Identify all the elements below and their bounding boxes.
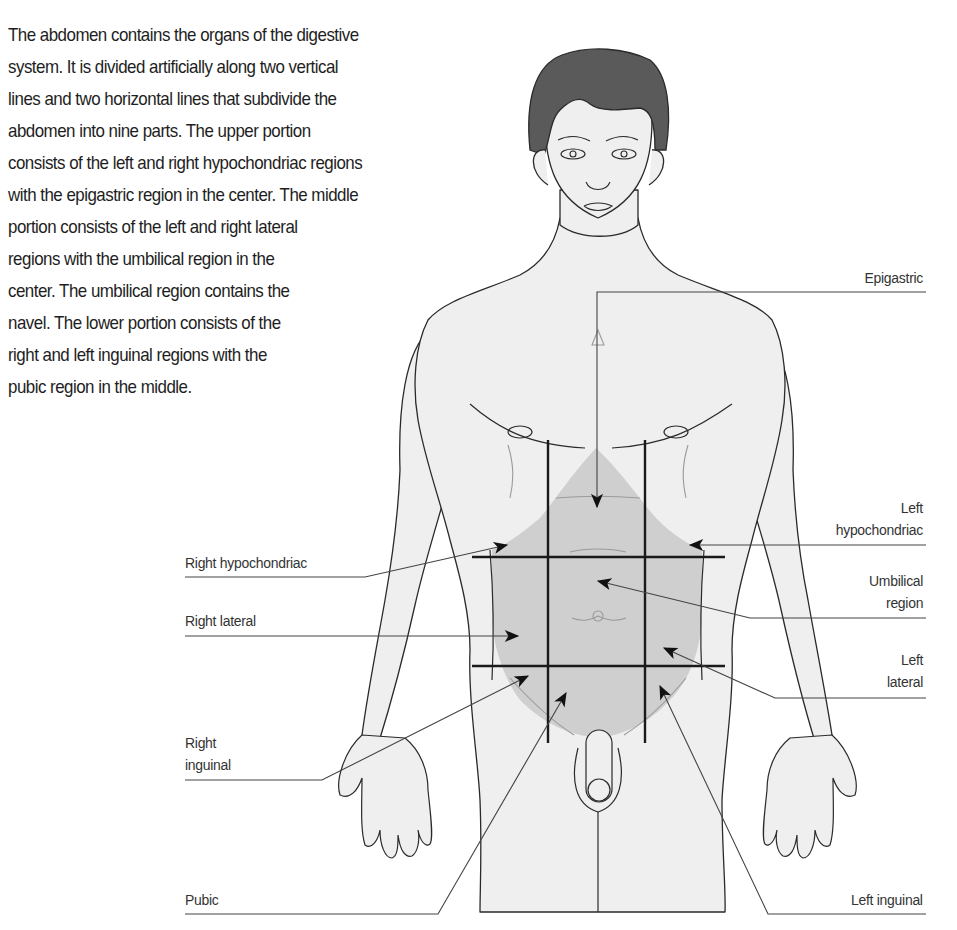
left-hand <box>763 735 856 858</box>
head <box>529 49 669 218</box>
label-epigastric: Epigastric <box>864 267 923 289</box>
right-hand <box>339 735 432 858</box>
label-left-inguinal: Left inguinal <box>851 889 923 911</box>
label-left-lateral: Left lateral <box>887 649 923 693</box>
label-right-lateral: Right lateral <box>185 610 256 632</box>
body-diagram <box>0 0 957 930</box>
label-pubic: Pubic <box>185 889 219 911</box>
left-ear <box>649 150 664 185</box>
label-right-hypochondriac: Right hypochondriac <box>185 552 307 574</box>
label-left-hypochondriac: Left hypochondriac <box>836 497 923 541</box>
right-ear <box>533 150 548 185</box>
label-right-inguinal: Right inguinal <box>185 732 231 776</box>
label-umbilical-region: Umbilical region <box>869 570 923 614</box>
